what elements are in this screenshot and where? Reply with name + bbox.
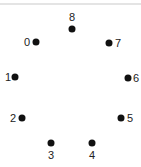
dot-label-3: 3 [48, 150, 54, 161]
dot-label-7: 7 [115, 38, 121, 49]
dot-5[interactable] [118, 115, 125, 122]
dot-8[interactable] [69, 26, 76, 33]
dot-label-4: 4 [89, 150, 95, 161]
dot-7[interactable] [106, 40, 113, 47]
dot-board: 0 1 2 3 4 5 6 7 8 [0, 0, 141, 167]
dot-4[interactable] [89, 140, 96, 147]
dot-label-6: 6 [133, 73, 139, 84]
dot-3[interactable] [48, 140, 55, 147]
dot-label-2: 2 [10, 113, 16, 124]
dot-2[interactable] [19, 115, 26, 122]
dot-label-8: 8 [69, 12, 75, 23]
dot-label-5: 5 [127, 113, 133, 124]
dot-label-0: 0 [24, 37, 30, 48]
dot-0[interactable] [33, 39, 40, 46]
dot-label-1: 1 [5, 72, 11, 83]
dot-6[interactable] [125, 75, 132, 82]
dot-1[interactable] [12, 74, 19, 81]
